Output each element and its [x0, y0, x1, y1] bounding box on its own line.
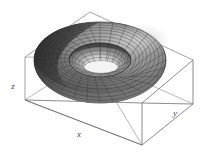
- axis-label-y: y: [172, 108, 177, 118]
- axis-label-z: z: [10, 81, 15, 91]
- torus-3d-plot: z y x: [0, 0, 201, 161]
- axis-label-x: x: [76, 129, 81, 139]
- plot-canvas: z y x: [0, 0, 201, 161]
- torus-surface: [34, 20, 170, 104]
